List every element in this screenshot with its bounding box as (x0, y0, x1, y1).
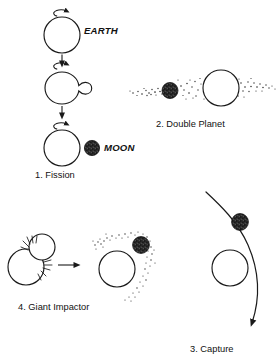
caption-capture: 3. Capture (190, 344, 233, 354)
earth-body (44, 130, 80, 166)
dust-band-middle (177, 78, 204, 100)
caption-double-planet: 2. Double Planet (156, 119, 225, 129)
panel-fission: EARTH MOON 1. Fis (35, 10, 136, 180)
rotation-arrow-icon (54, 123, 68, 127)
rotation-arrow-icon (54, 63, 68, 67)
panel-capture: 3. Capture (190, 192, 258, 354)
diagram-canvas: EARTH MOON 1. Fis (0, 0, 279, 360)
earth-body (44, 17, 80, 53)
impact-after (92, 231, 155, 301)
rotation-arrow-tail-icon (54, 67, 58, 70)
moon-body (232, 214, 249, 231)
dust-band-left (129, 88, 162, 96)
earth-body (203, 70, 239, 106)
deforming-earth-body (45, 72, 92, 104)
moon-body (84, 140, 99, 155)
rotation-arrow-icon (54, 10, 68, 14)
fission-stage-earth-and-moon (44, 123, 100, 166)
impact-before (8, 234, 55, 285)
panel-giant-impactor: 4. Giant Impactor (8, 231, 156, 312)
earth-body (212, 250, 248, 286)
fission-stage-rotating-earth (44, 10, 80, 53)
earth-body (99, 251, 135, 287)
moon-body (162, 83, 178, 99)
impactor-body (29, 234, 55, 260)
earth-label: EARTH (84, 25, 119, 36)
caption-giant-impactor: 4. Giant Impactor (18, 302, 89, 312)
rotation-arrow-tail-icon (54, 14, 58, 17)
moon-body (133, 237, 150, 254)
caption-fission: 1. Fission (35, 170, 75, 180)
lunar-formation-diagram: EARTH MOON 1. Fis (0, 0, 279, 360)
panel-double-planet: 2. Double Planet (129, 70, 275, 129)
fission-stage-deforming-earth (45, 63, 92, 104)
dust-band-right (237, 78, 275, 98)
rotation-arrow-tail-icon (54, 127, 58, 130)
moon-label: MOON (104, 142, 136, 153)
